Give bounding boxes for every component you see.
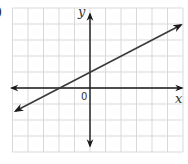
axes [12,14,183,146]
coordinate-plane: x y 0 [0,0,188,164]
graph-figure: ) x y 0 [0,0,188,164]
x-axis-label: x [175,91,183,106]
y-axis-label: y [77,4,86,19]
grid-lines [13,8,184,152]
graphed-line [16,25,182,111]
origin-label: 0 [81,91,87,102]
data-series [16,25,182,111]
